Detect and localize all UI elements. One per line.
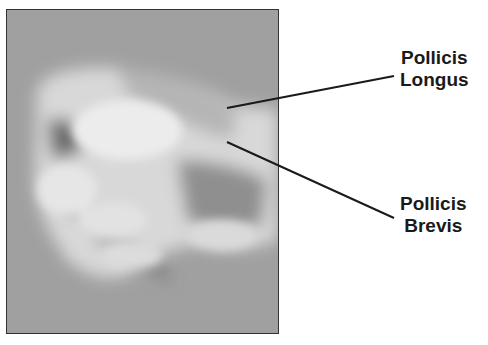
longus-leader-line [227, 76, 394, 108]
label-pollicis-longus: Pollicis Longus [400, 47, 469, 91]
brevis-leader-line [227, 142, 394, 218]
label-pollicis-brevis: Pollicis Brevis [400, 193, 467, 237]
